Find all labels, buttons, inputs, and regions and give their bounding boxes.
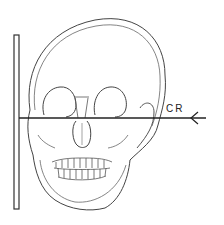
image-receptor-plate [14,35,19,209]
central-ray-label: CR [166,103,184,114]
zygomatic-left [38,135,55,148]
zygomatic-right [108,135,128,148]
lower-teeth [54,168,110,180]
ear [137,103,154,148]
skull-outline-outer [28,19,166,210]
nasal-bridge [74,97,89,118]
orbit-left [43,87,76,117]
diagram-canvas: CR [0,0,224,225]
orbit-right [94,87,126,117]
skull-diagram [0,0,224,225]
mandible [40,160,126,202]
upper-teeth [52,158,112,168]
